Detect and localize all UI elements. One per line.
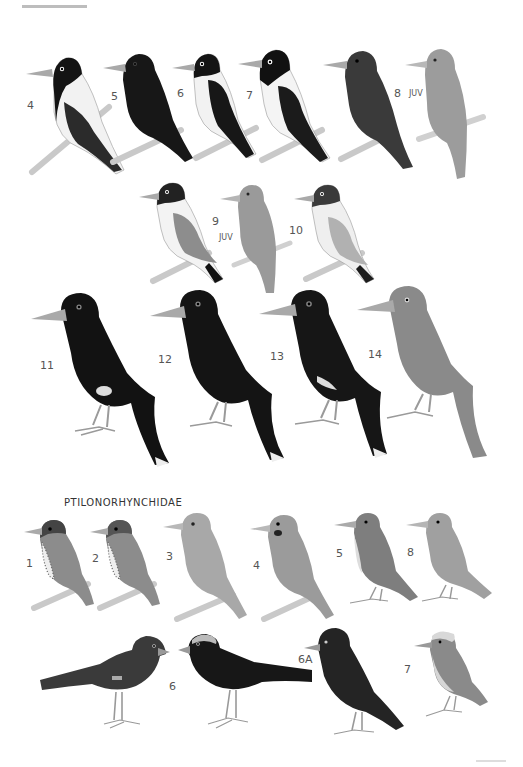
bird-number-label: 1 [26,558,33,569]
bird-number-label: 14 [368,349,382,360]
page-footer-mark [476,760,506,762]
bird-number-label: 13 [270,351,284,362]
bird-number-label: 8 [394,88,401,99]
bird-illustration-8-juvenile [405,47,490,182]
bowerbird-illustration-4 [250,513,340,623]
bird-illustration-8 [323,47,418,172]
bird-number-label: 12 [158,354,172,365]
bird-number-label: 3 [166,551,173,562]
bird-number-label: 7 [246,90,253,101]
bird-number-label: 6A [298,654,313,665]
bird-number-label: 4 [253,560,260,571]
bird-illustration-14 [357,286,497,461]
bird-number-label: 8 [407,547,414,558]
bird-illustration-9-juvenile [220,183,295,295]
bowerbird-illustration-6-female [40,636,170,736]
bird-illustration-9 [139,181,229,286]
bowerbird-illustration-1 [24,518,99,613]
bird-number-label: 5 [336,548,343,559]
bird-number-label: 10 [289,225,303,236]
bird-number-label: 4 [27,100,34,111]
bowerbird-illustration-8 [406,511,496,606]
bowerbird-illustration-7 [414,630,490,720]
bird-illustration-10 [294,183,379,288]
page-header-rule [22,5,87,8]
bird-number-label: 5 [111,91,118,102]
family-heading: PTILONORHYNCHIDAE [64,497,182,508]
bird-number-label: 9 [212,216,219,227]
bowerbird-illustration-6A [304,626,410,736]
bowerbird-illustration-3 [163,511,253,621]
bird-number-label: 11 [40,360,54,371]
bird-number-label: 6 [169,681,176,692]
bird-number-label: 2 [92,553,99,564]
bird-number-label: 6 [177,88,184,99]
bowerbird-illustration-6-male [178,634,314,736]
bird-number-label: 7 [404,664,411,675]
bowerbird-illustration-2 [90,518,165,613]
